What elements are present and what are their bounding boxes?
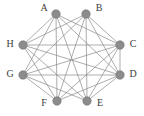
graph-node-label-c: C bbox=[130, 38, 137, 49]
graph-edge bbox=[23, 14, 86, 45]
graph-edge bbox=[86, 14, 120, 45]
graph-edge bbox=[23, 14, 56, 75]
graph-node-c[interactable] bbox=[116, 41, 124, 49]
graph-node-label-b: B bbox=[96, 2, 103, 13]
graph-node-label-d: D bbox=[129, 68, 136, 79]
graph-node-b[interactable] bbox=[82, 10, 90, 18]
graph-edge bbox=[87, 75, 120, 101]
graph-node-e[interactable] bbox=[83, 97, 91, 105]
graph-node-label-a: A bbox=[40, 2, 48, 13]
graph-edge bbox=[23, 14, 86, 75]
graph-node-label-e: E bbox=[97, 97, 103, 108]
graph-edge bbox=[56, 14, 57, 101]
graph-node-h[interactable] bbox=[19, 41, 27, 49]
graph-node-label-f: F bbox=[41, 97, 47, 108]
graph-node-g[interactable] bbox=[19, 71, 27, 79]
graph-node-a[interactable] bbox=[52, 10, 60, 18]
graph-edge bbox=[86, 14, 87, 101]
graph-node-f[interactable] bbox=[53, 97, 61, 105]
graph-node-d[interactable] bbox=[116, 71, 124, 79]
label-layer: ABCDEFGH bbox=[6, 2, 136, 108]
graph-node-label-g: G bbox=[6, 68, 13, 79]
graph-edge bbox=[23, 75, 57, 101]
graph-edge bbox=[23, 14, 56, 45]
graph-node-label-h: H bbox=[6, 38, 13, 49]
edge-layer bbox=[23, 14, 120, 101]
graph-edge bbox=[23, 45, 57, 101]
graph-edge bbox=[23, 45, 87, 101]
graph-diagram: ABCDEFGH bbox=[0, 0, 144, 116]
graph-edge bbox=[56, 14, 120, 75]
graph-canvas: ABCDEFGH bbox=[0, 0, 144, 116]
